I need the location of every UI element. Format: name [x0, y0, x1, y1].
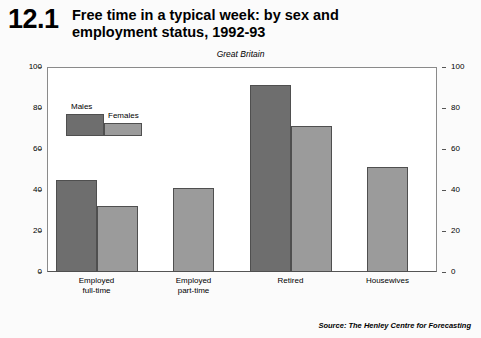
chart-subtitle: Great Britain	[0, 49, 481, 59]
x-category-label-line2: part-time	[145, 286, 242, 296]
y-tick-mark-left-60	[38, 149, 42, 150]
x-category-label-line2: full-time	[48, 286, 145, 296]
x-category-label-line1: Employed	[48, 276, 145, 286]
y-tick-mark-left-100	[38, 67, 42, 68]
y-tick-mark-right-80	[442, 108, 446, 109]
y-tick-mark-right-40	[442, 190, 446, 191]
legend-label-males: Males	[71, 102, 92, 111]
x-category-label-line1: Retired	[242, 276, 339, 286]
y-axis-right: 020406080100	[442, 67, 472, 272]
y-tick-mark-right-20	[442, 231, 446, 232]
bar-males-2	[250, 85, 291, 272]
bar-males-0	[56, 180, 97, 272]
y-tick-label-right-60: 60	[451, 144, 460, 153]
x-category-label-line1: Housewives	[339, 276, 436, 286]
chart-number: 12.1	[8, 4, 59, 35]
bar-females-3	[367, 167, 408, 272]
bar-females-0	[97, 206, 138, 272]
y-tick-label-right-0: 0	[451, 267, 455, 276]
x-axis-category-labels: Employedfull-timeEmployedpart-timeRetire…	[48, 276, 436, 302]
x-category-label-0: Employedfull-time	[48, 276, 145, 296]
y-tick-label-right-20: 20	[451, 226, 460, 235]
y-tick-mark-right-0	[442, 272, 446, 273]
y-tick-label-right-80: 80	[451, 103, 460, 112]
y-tick-mark-right-100	[442, 67, 446, 68]
legend-swatch-females	[104, 123, 142, 136]
bar-females-1	[173, 188, 214, 272]
bars-layer	[48, 67, 436, 272]
y-tick-mark-right-60	[442, 149, 446, 150]
chart-legend: Males Females	[66, 100, 226, 150]
y-tick-mark-left-0	[38, 272, 42, 273]
page-title: Free time in a typical week: by sex and …	[72, 7, 402, 41]
legend-swatch-males	[66, 114, 104, 136]
y-tick-label-right-40: 40	[451, 185, 460, 194]
bar-females-2	[291, 126, 332, 272]
y-tick-mark-left-40	[38, 190, 42, 191]
source-note: Source: The Henley Centre for Forecastin…	[318, 321, 471, 330]
x-category-label-2: Retired	[242, 276, 339, 286]
x-category-label-line1: Employed	[145, 276, 242, 286]
figure-header: 12.1 Free time in a typical week: by sex…	[0, 0, 481, 48]
y-tick-label-right-100: 100	[451, 62, 464, 71]
x-category-label-3: Housewives	[339, 276, 436, 286]
y-tick-mark-left-20	[38, 231, 42, 232]
legend-label-females: Females	[108, 111, 139, 120]
y-tick-mark-left-80	[38, 108, 42, 109]
figure-container: 12.1 Free time in a typical week: by sex…	[0, 0, 481, 338]
y-axis-left: 020406080100	[20, 67, 42, 272]
x-category-label-1: Employedpart-time	[145, 276, 242, 296]
